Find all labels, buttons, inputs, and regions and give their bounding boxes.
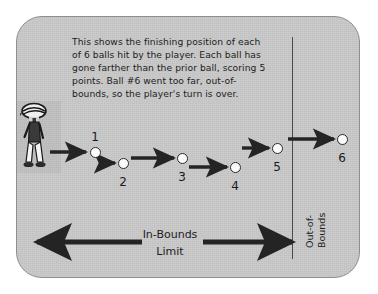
ball-4 — [230, 162, 241, 173]
in-bounds-label-line1: In-Bounds — [110, 226, 230, 243]
ball-1 — [90, 147, 101, 158]
ball-label-3: 3 — [174, 170, 190, 184]
in-bounds-limit-line — [292, 37, 293, 259]
ball-label-6: 6 — [334, 151, 350, 165]
ball-6 — [337, 134, 348, 145]
ball-2 — [118, 158, 129, 169]
ball-label-4: 4 — [227, 179, 243, 193]
out-of-bounds-label-line2: Bounds — [316, 213, 327, 248]
description-text: This shows the finishing position of eac… — [72, 35, 288, 100]
in-bounds-label-line2: Limit — [110, 243, 230, 260]
player-figure-icon — [17, 100, 53, 174]
ball-5 — [272, 143, 283, 154]
diagram-canvas: This shows the finishing position of eac… — [0, 0, 378, 294]
ball-3 — [177, 153, 188, 164]
in-bounds-limit-label: In-Bounds Limit — [110, 226, 230, 260]
ball-label-2: 2 — [115, 175, 131, 189]
ball-label-1: 1 — [87, 130, 103, 144]
ball-label-5: 5 — [269, 160, 285, 174]
out-of-bounds-label-line1: Out-of- — [304, 215, 315, 248]
